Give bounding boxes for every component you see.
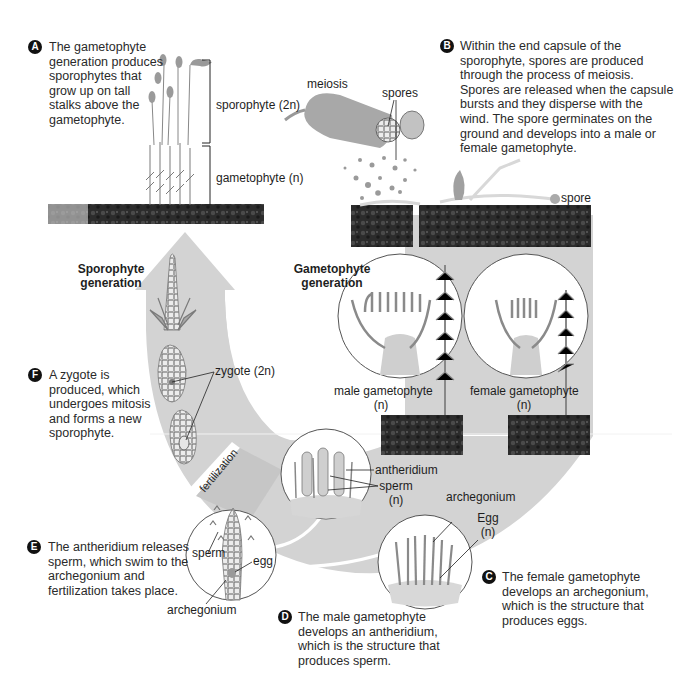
step-a-text: The gametophyte generation produces spor… <box>49 40 189 128</box>
line: produces eggs. <box>502 614 672 629</box>
line: grow up on tall <box>49 84 189 99</box>
capsule-illustration <box>285 93 424 200</box>
label-line: (n) <box>470 398 578 412</box>
line: female gametophyte. <box>460 141 678 156</box>
label-sperm-e: sperm <box>192 546 225 560</box>
label-female-gametophyte: female gametophyte (n) <box>470 384 578 412</box>
line: develops an antheridium, <box>298 625 468 640</box>
line: A zygote is <box>49 368 159 383</box>
line: bursts and they disperse with the <box>460 97 678 112</box>
step-b-text: Within the end capsule of the sporophyte… <box>460 39 678 156</box>
label-spore: spore <box>561 191 591 205</box>
badge-b: B <box>440 39 454 53</box>
line: sperm, which swim to the <box>48 555 208 570</box>
label-male-gametophyte: male gametophyte (n) <box>334 384 428 412</box>
label-archegonium-e: archegonium <box>167 603 236 617</box>
label-line: female gametophyte <box>470 384 578 398</box>
label-meiosis: meiosis <box>307 77 348 91</box>
line: undergoes mitosis <box>49 397 159 412</box>
label-sporophyte-2n: sporophyte (2n) <box>216 98 300 112</box>
line: produces sperm. <box>298 654 468 669</box>
label-gametophyte-n: gametophyte (n) <box>216 171 303 185</box>
step-d-text: The male gametophyte develops an antheri… <box>298 610 468 668</box>
line: fertilization takes place. <box>48 584 208 599</box>
line: sporophyte, spores are produced <box>460 54 678 69</box>
soil-strip-b <box>351 160 591 247</box>
label-line: Egg <box>476 511 500 525</box>
label-line: sperm <box>378 479 414 493</box>
step-c-text: The female gametophyte develops an arche… <box>502 570 672 628</box>
line: The male gametophyte <box>298 610 468 625</box>
line: which is the structure that <box>298 639 468 654</box>
line: wind. The spore germinates on the <box>460 112 678 127</box>
line: sporophyte. <box>49 426 159 441</box>
step-f-text: A zygote is produced, which undergoes mi… <box>49 368 159 441</box>
label-line: male gametophyte <box>334 384 428 398</box>
heading-line: Sporophyte <box>68 262 154 276</box>
line: generation produces <box>49 55 189 70</box>
label-line: (n) <box>476 525 500 539</box>
label-zygote: zygote (2n) <box>215 364 275 378</box>
line: sporophytes that <box>49 69 189 84</box>
badge-a: A <box>28 40 42 54</box>
gametophyte-generation-heading: Gametophyte generation <box>284 262 380 290</box>
line: Within the end capsule of the <box>460 39 678 54</box>
label-archegonium-c: archegonium <box>446 490 515 504</box>
label-spores: spores <box>382 86 418 100</box>
line: Spores are released when the capsule <box>460 83 678 98</box>
line: The antheridium releases <box>48 540 208 555</box>
step-e-text: The antheridium releases sperm, which sw… <box>48 540 208 598</box>
badge-c: C <box>482 570 496 584</box>
line: which is the structure that <box>502 599 672 614</box>
label-line: (n) <box>378 493 414 507</box>
line: ground and develops into a male or <box>460 127 678 142</box>
line: gametophyte. <box>49 113 189 128</box>
line: produced, which <box>49 383 159 398</box>
line: through the process of meiosis. <box>460 68 678 83</box>
heading-line: generation <box>284 276 380 290</box>
soil-strip-a <box>48 204 264 224</box>
line: develops an archegonium, <box>502 585 672 600</box>
line: archegonium and <box>48 569 208 584</box>
label-sperm-n: sperm (n) <box>378 479 414 507</box>
line: The female gametophyte <box>502 570 672 585</box>
label-egg-n: Egg (n) <box>476 511 500 539</box>
badge-f: F <box>28 368 42 382</box>
brackets <box>202 60 210 205</box>
label-line: (n) <box>334 398 428 412</box>
label-egg-e: egg <box>253 554 273 568</box>
sporophyte-generation-heading: Sporophyte generation <box>68 262 154 290</box>
label-antheridium: antheridium <box>375 463 438 477</box>
badge-e: E <box>27 540 41 554</box>
line: stalks above the <box>49 98 189 113</box>
badge-d: D <box>278 610 292 624</box>
line: and forms a new <box>49 412 159 427</box>
line: The gametophyte <box>49 40 189 55</box>
heading-line: generation <box>68 276 154 290</box>
heading-line: Gametophyte <box>284 262 380 276</box>
